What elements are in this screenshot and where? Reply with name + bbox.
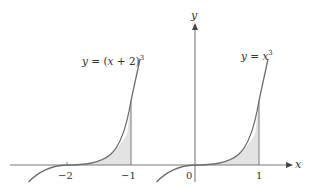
y-axis-arrow-icon bbox=[192, 23, 198, 30]
shaded-region-cube bbox=[195, 101, 259, 165]
equation-label-shifted-cube: y = (x + 2)3 bbox=[81, 54, 144, 67]
shaded-region-shifted bbox=[67, 101, 131, 165]
origin-label: 0 bbox=[186, 170, 192, 181]
tick-label-minus-two: −2 bbox=[58, 170, 73, 181]
tick-label-minus-one: −1 bbox=[121, 170, 136, 181]
equation-label-cube: y = x3 bbox=[240, 49, 273, 62]
y-axis-label: y bbox=[190, 9, 198, 22]
tick-label-one: 1 bbox=[256, 170, 262, 181]
cubic-shift-diagram: y x 0 −2 −1 1 y = (x + 2)3 y = x3 bbox=[0, 0, 311, 188]
x-axis-label: x bbox=[295, 158, 302, 171]
x-axis-arrow-icon bbox=[286, 162, 293, 168]
